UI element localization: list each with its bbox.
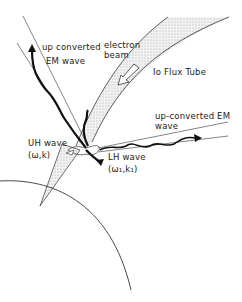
label-io-flux-tube: Io Flux Tube xyxy=(153,67,206,77)
label-line: wave xyxy=(155,121,230,131)
label-line: LH wave xyxy=(108,152,146,162)
label-up-converted-left: up converted EM wave xyxy=(42,42,101,66)
label-line: up-converted EM xyxy=(155,111,230,121)
arrow-head-right xyxy=(194,134,202,142)
label-line: UH wave xyxy=(28,138,67,148)
label-up-converted-right: up-converted EM wave xyxy=(155,111,230,131)
planet-limb xyxy=(0,181,131,290)
label-line: EM wave xyxy=(42,56,101,66)
left-cone-line-1 xyxy=(23,16,84,138)
label-line: electron xyxy=(104,40,140,50)
label-line: up converted xyxy=(42,42,101,52)
label-electron-beam: electron beam xyxy=(104,40,140,60)
label-line: (ω,k) xyxy=(28,150,67,160)
up-converted-em-wave-right xyxy=(100,137,195,150)
label-line: beam xyxy=(104,50,140,60)
label-uh-wave: UH wave (ω,k) xyxy=(28,138,67,160)
arrow-head-left xyxy=(28,44,36,52)
label-lh-wave: LH wave (ω₁,k₁) xyxy=(108,152,146,174)
arrow-head-lh xyxy=(96,159,104,166)
label-line: (ω₁,k₁) xyxy=(108,164,146,174)
